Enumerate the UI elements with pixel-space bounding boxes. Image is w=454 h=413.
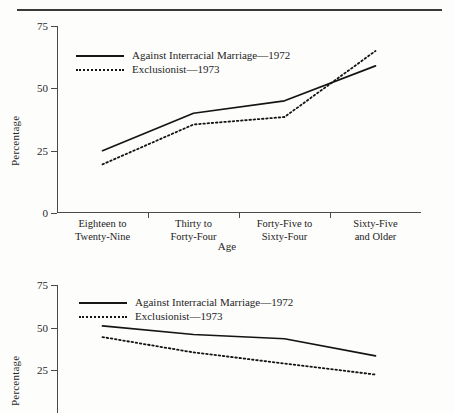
legend-label-solid: Against Interracial Marriage—1972 [132,48,290,62]
series-line-solid [103,66,376,151]
legend-item-against-interracial-marriage-1972: Against Interracial Marriage—1972 [76,48,290,62]
y-axis-tick [51,151,57,152]
y-axis-title-bottom: Percentage [9,356,21,406]
y-axis-tick-label: 75 [37,280,48,291]
y-axis-tick-label: 25 [37,145,48,156]
y-axis-tick-label: 0 [43,208,49,219]
legend-label-dotted: Exclusionist—1973 [132,62,219,76]
y-axis-tick [51,328,57,329]
y-axis-tick [51,26,57,27]
legend-item-exclusionist-1973-bottom: Exclusionist—1973 [79,309,293,323]
legend-label-solid-bottom: Against Interracial Marriage—1972 [135,295,293,309]
y-axis-tick-label: 75 [37,21,48,32]
y-axis-tick [51,213,57,214]
book-page: Percentage 0255075 Against Interracial M… [0,0,454,413]
legend-item-against-interracial-marriage-1972-bottom: Against Interracial Marriage—1972 [79,295,293,309]
series-line-dotted [103,337,376,375]
legend-top: Against Interracial Marriage—1972 Exclus… [76,48,290,76]
legend-swatch-solid-icon [79,298,127,306]
y-axis-tick-label: 25 [37,365,48,376]
legend-swatch-dotted-icon [79,312,127,320]
figure-top: Percentage 0255075 Against Interracial M… [0,16,454,254]
y-axis-tick [51,370,57,371]
y-axis-tick [51,285,57,286]
figure-bottom: Percentage 255075 Against Interracial Ma… [0,268,454,413]
legend-swatch-dotted-icon [76,65,124,73]
y-axis-title-top: Percentage [9,116,21,166]
legend-swatch-solid-icon [76,51,124,59]
page-header-rule [17,9,442,11]
legend-bottom: Against Interracial Marriage—1972 Exclus… [79,295,293,323]
series-line-solid [103,326,376,356]
y-axis-tick-label: 50 [37,83,48,94]
y-axis-tick [51,88,57,89]
legend-item-exclusionist-1973: Exclusionist—1973 [76,62,290,76]
legend-label-dotted-bottom: Exclusionist—1973 [135,309,222,323]
x-axis-title-top: Age [0,240,454,252]
y-axis-tick-label: 50 [37,322,48,333]
